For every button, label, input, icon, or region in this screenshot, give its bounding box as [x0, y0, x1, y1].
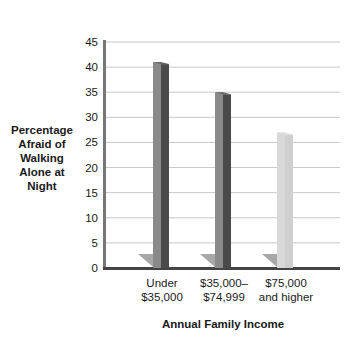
y-tick-label: 20 — [85, 162, 98, 174]
bar-shadow — [200, 254, 215, 267]
y-axis — [103, 40, 106, 270]
y-tick-label: 30 — [85, 111, 98, 123]
bar-side — [277, 132, 285, 268]
x-axis-label: Annual Family Income — [106, 318, 340, 330]
y-tick-label: 5 — [92, 237, 98, 249]
bar-side — [215, 92, 223, 268]
y-axis-label: Percentage Afraid of Walking Alone at Ni… — [2, 123, 82, 193]
bar-shadow — [138, 254, 153, 267]
category-label: $75,000 and higher — [246, 276, 326, 304]
y-tick-label: 35 — [85, 86, 98, 98]
y-tick-label: 25 — [85, 136, 98, 148]
y-tick-label: 0 — [92, 262, 98, 274]
bar — [285, 134, 293, 268]
bar — [223, 94, 231, 268]
y-tick-label: 10 — [85, 212, 98, 224]
y-tick-label: 40 — [85, 61, 98, 73]
y-tick-label: 15 — [85, 187, 98, 199]
bar-side — [153, 62, 161, 268]
bar-shadow — [262, 254, 277, 267]
bar — [161, 64, 169, 268]
y-tick-label: 45 — [85, 36, 98, 48]
